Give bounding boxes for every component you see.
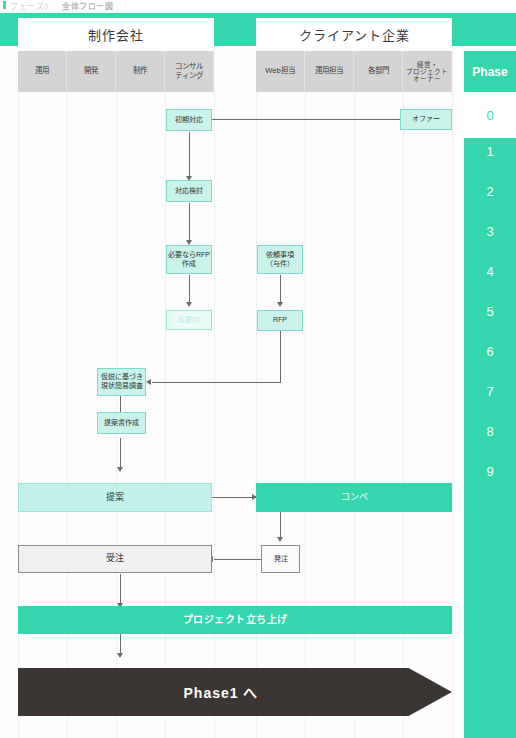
connector-compe-to-orderplaced	[280, 512, 281, 540]
connector-offer-to-initial	[212, 119, 400, 120]
node-competition[interactable]: コンペ	[256, 483, 452, 512]
arrowhead-icon	[146, 379, 151, 385]
column-header-seisaku: 制作	[116, 51, 165, 92]
node-request-items[interactable]: 依頼事項 （与件）	[257, 245, 303, 274]
connector-rfp-to-provisional	[189, 275, 190, 305]
connector-request-to-rfp	[280, 275, 281, 305]
connector-initial-to-review	[189, 132, 190, 178]
phase-item-5[interactable]: 5	[464, 301, 516, 321]
flowchart-canvas: 制作会社 クライアント企業 運用 開発 制作 コンサル ティング Web担当 運…	[0, 13, 516, 738]
node-initial-response[interactable]: 初期対応	[166, 109, 212, 131]
flowchart-page: フェーズ0 全体フロー図 制作会社 クライアント企業 運用 開発 制作 コンサル…	[0, 0, 516, 738]
group-header-client-company: クライアント企業	[256, 18, 452, 51]
phase-item-1[interactable]: 1	[464, 141, 516, 161]
phase-item-7[interactable]: 7	[464, 381, 516, 401]
connector-survey-to-proposaldoc	[120, 396, 121, 412]
node-rfp-if-needed[interactable]: 必要ならRFP 作成	[166, 245, 212, 274]
fragment-right-text: 全体フロー図	[62, 0, 113, 11]
phase-item-9[interactable]: 9	[464, 461, 516, 481]
column-header-kakubumon: 各部門	[354, 51, 403, 92]
phase-current-0[interactable]: 0	[464, 92, 516, 138]
connector-rfp-down	[280, 331, 281, 383]
column-header-kaihatsu: 開発	[67, 51, 116, 92]
arrowhead-icon	[277, 537, 283, 542]
node-rfp[interactable]: RFP	[257, 310, 303, 331]
connector-orderreceived-to-kickoff	[120, 574, 121, 606]
arrowhead-icon	[117, 653, 123, 658]
node-order-received[interactable]: 受注	[18, 545, 212, 573]
column-header-executive-project-owner: 経営・ プロジェクト オーナー	[403, 51, 452, 92]
phase-item-2[interactable]: 2	[464, 181, 516, 201]
connector-rfp-to-survey	[152, 382, 281, 383]
column-header-consulting: コンサル ティング	[165, 51, 214, 92]
lane-divider	[452, 13, 453, 738]
connector-proposaldoc-to-proposal	[120, 438, 121, 470]
accent-tick-icon	[3, 1, 6, 9]
arrowhead-icon	[277, 302, 283, 307]
node-proposal-document[interactable]: 提案書作成	[97, 412, 146, 434]
group-header-production-company: 制作会社	[18, 18, 214, 51]
node-hypothesis-survey[interactable]: 仮説に基づき 現状簡易調査	[97, 368, 146, 396]
column-header-web-tantou: Web担当	[256, 51, 305, 92]
node-response-review[interactable]: 対応検討	[166, 180, 212, 202]
node-order-placed[interactable]: 発注	[261, 545, 300, 573]
connector-orderplaced-to-orderreceived	[214, 559, 262, 560]
banner-next-phase[interactable]: Phase1 へ	[18, 668, 452, 716]
connector-review-to-rfp	[189, 203, 190, 243]
column-header-unyou-tantou: 運用担当	[305, 51, 354, 92]
fragment-left-text: フェーズ0	[10, 0, 49, 11]
arrowhead-icon	[186, 302, 192, 307]
node-proposal[interactable]: 提案	[18, 483, 212, 512]
node-project-kickoff[interactable]: プロジェクト立ち上げ	[18, 606, 452, 634]
column-header-unyou: 運用	[18, 51, 67, 92]
phase-item-3[interactable]: 3	[464, 221, 516, 241]
page-top-fragment: フェーズ0 全体フロー図	[0, 0, 516, 13]
phase-item-8[interactable]: 8	[464, 421, 516, 441]
phase-item-6[interactable]: 6	[464, 341, 516, 361]
phase-column-header: Phase	[464, 51, 516, 92]
banner-next-phase-label: Phase1 へ	[184, 682, 259, 702]
node-offer[interactable]: オファー	[400, 109, 452, 130]
phase-item-4[interactable]: 4	[464, 261, 516, 281]
arrowhead-icon	[117, 467, 123, 472]
node-provisional-proposal[interactable]: 仮提01	[166, 310, 212, 330]
